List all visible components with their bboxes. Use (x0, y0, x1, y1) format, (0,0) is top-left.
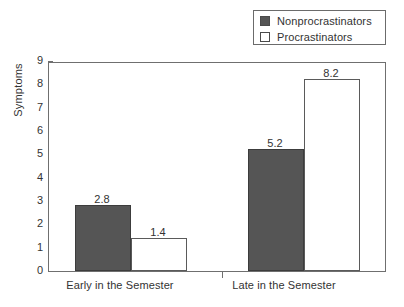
y-tick-label: 5 (26, 147, 43, 159)
bar-early-procrastinators (131, 238, 187, 271)
legend-label-nonprocrastinators: Nonprocrastinators (277, 15, 372, 27)
bar-value-early-nonprocrastinators: 2.8 (74, 193, 130, 205)
legend-swatch-filled-square-icon (260, 16, 270, 26)
bar-value-early-procrastinators: 1.4 (130, 226, 186, 238)
legend-entry-nonprocrastinators: Nonprocrastinators (260, 14, 385, 28)
bar-value-late-procrastinators: 8.2 (303, 67, 359, 79)
y-tick-label: 3 (26, 194, 43, 206)
bar-chart: Nonprocrastinators Procrastinators Sympt… (0, 0, 404, 307)
bar-early-nonprocrastinators (75, 205, 131, 271)
bar-late-nonprocrastinators (248, 149, 304, 271)
x-axis-label-late: Late in the Semester (210, 279, 358, 291)
y-tick-label: 0 (26, 264, 43, 276)
y-tick-label: 1 (26, 241, 43, 253)
y-axis-title: Symptoms (12, 30, 24, 150)
y-tick-label: 7 (26, 101, 43, 113)
y-tick-label: 6 (26, 124, 43, 136)
y-tick-label: 2 (26, 217, 43, 229)
bar-late-procrastinators (304, 79, 360, 271)
legend-label-procrastinators: Procrastinators (277, 31, 352, 43)
y-tick-label: 9 (26, 54, 43, 66)
plot-area (48, 62, 386, 272)
x-axis-label-early: Early in the Semester (50, 279, 190, 291)
bar-value-late-nonprocrastinators: 5.2 (247, 137, 303, 149)
y-tick-label: 8 (26, 77, 43, 89)
y-tick-label: 4 (26, 171, 43, 183)
x-axis-group-separator-tick (222, 272, 223, 278)
legend-swatch-hollow-square-icon (260, 32, 270, 42)
chart-legend: Nonprocrastinators Procrastinators (253, 10, 386, 45)
legend-entry-procrastinators: Procrastinators (260, 30, 385, 44)
